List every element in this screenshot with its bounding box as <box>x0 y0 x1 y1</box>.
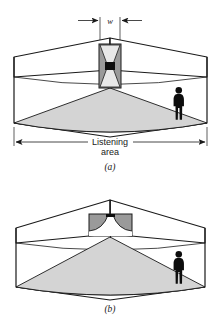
ceiling-panel-left <box>14 38 110 77</box>
width-dimension-label: w <box>107 16 113 26</box>
ceiling-panel-right <box>110 38 207 77</box>
speaker-driver <box>105 62 115 70</box>
panel-a: w <box>14 16 207 174</box>
listener-head-b <box>175 251 182 258</box>
panel-a-caption: (a) <box>104 162 115 173</box>
listener-head <box>175 87 182 94</box>
figure-canvas: w <box>0 0 222 321</box>
speaker-a <box>99 38 121 88</box>
listening-area-label-line1: Listening <box>92 137 128 147</box>
panel-b: (b) <box>16 200 205 315</box>
loudspeaker-coverage-figure: w <box>0 0 222 321</box>
listening-area-label-line2: area <box>101 147 119 157</box>
panel-b-caption: (b) <box>104 304 115 315</box>
